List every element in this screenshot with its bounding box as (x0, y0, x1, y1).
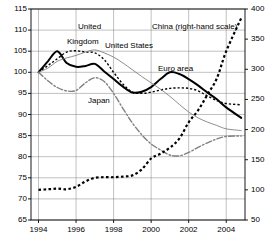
x-axis-tick-1996: 1996 (62, 226, 90, 234)
line-chart-svg (0, 0, 280, 244)
series-label-kingdom: Kingdom (67, 37, 99, 46)
left-axis-tick-85: 85 (2, 132, 27, 140)
right-axis-tick-100: 100 (251, 186, 264, 194)
left-axis-tick-65: 65 (2, 216, 27, 224)
left-axis-tick-95: 95 (2, 89, 27, 97)
right-axis-tick-150: 150 (251, 156, 264, 164)
left-axis-tick-115: 115 (2, 5, 27, 13)
series-line-euro-area (39, 51, 242, 118)
left-axis-tick-70: 70 (2, 195, 27, 203)
x-axis-tick-1994: 1994 (25, 226, 53, 234)
left-axis-tick-75: 75 (2, 174, 27, 182)
x-axis-tick-2004: 2004 (212, 226, 240, 234)
right-axis-tick-250: 250 (251, 95, 264, 103)
left-axis-tick-100: 100 (2, 68, 27, 76)
right-axis-tick-350: 350 (251, 35, 264, 43)
left-axis-tick-110: 110 (2, 26, 27, 34)
left-axis-tick-90: 90 (2, 111, 27, 119)
chart-container: 65707580859095100105110115 5010015020025… (0, 0, 280, 244)
series-label-japan: Japan (88, 96, 110, 105)
series-line-united-states (39, 50, 242, 131)
right-axis-tick-300: 300 (251, 65, 264, 73)
right-axis-tick-400: 400 (251, 5, 264, 13)
x-axis-tick-1998: 1998 (100, 226, 128, 234)
series-line-united-kingdom (39, 51, 242, 105)
x-axis-tick-2002: 2002 (175, 226, 203, 234)
series-label-united-states: United States (105, 41, 153, 50)
series-line-japan (39, 72, 242, 156)
left-axis-tick-105: 105 (2, 47, 27, 55)
right-axis-tick-50: 50 (251, 216, 260, 224)
right-axis-tick-200: 200 (251, 126, 264, 134)
left-axis-tick-80: 80 (2, 153, 27, 161)
series-label-united: United (78, 22, 101, 31)
series-label-euro-area: Euro area (158, 64, 193, 73)
series-label-china-right-hand-scale: China (right-hand scale) (152, 22, 237, 31)
x-axis-tick-2000: 2000 (137, 226, 165, 234)
